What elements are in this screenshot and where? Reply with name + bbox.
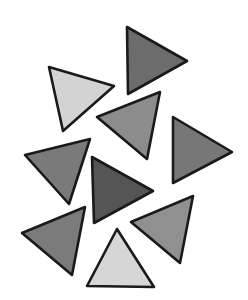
tri-center-upper <box>97 92 160 159</box>
tri-bottom-right <box>131 196 193 263</box>
tri-bottom-left <box>22 207 85 275</box>
triangle-illustration <box>0 0 248 300</box>
triangles-drawing <box>0 0 248 300</box>
tri-light-bottom <box>87 229 154 287</box>
tri-right <box>173 117 232 183</box>
tri-top-right <box>127 27 187 94</box>
tri-left-middle <box>25 139 90 204</box>
tri-dark-center <box>92 157 153 223</box>
